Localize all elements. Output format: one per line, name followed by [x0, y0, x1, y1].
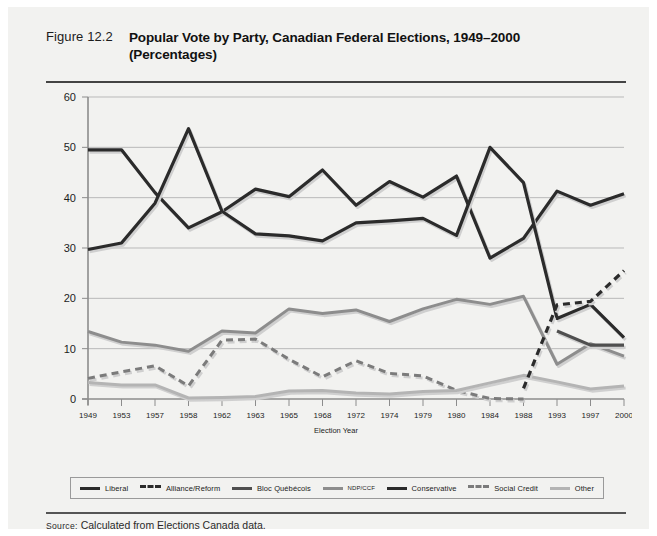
x-tick-label: 1963 — [247, 411, 265, 420]
legend-swatch-icon — [323, 487, 343, 490]
legend-label: Conservative — [412, 484, 457, 493]
series-line-conservative — [88, 129, 624, 338]
figure-number: Figure 12.2 — [46, 29, 113, 44]
series-shadow — [90, 131, 626, 340]
y-tick-label: 40 — [64, 192, 76, 204]
y-tick-label: 60 — [64, 91, 76, 103]
figure-page: Figure 12.2 Popular Vote by Party, Canad… — [0, 0, 657, 536]
x-tick-label: 1958 — [180, 411, 198, 420]
x-tick-label: 1997 — [582, 411, 600, 420]
legend-label: Social Credit — [494, 484, 538, 493]
figure-title-line-2: (Percentages) — [129, 46, 520, 63]
x-tick-label: 1988 — [515, 411, 533, 420]
legend-swatch-icon — [387, 487, 407, 490]
gridlines-group — [88, 97, 624, 399]
x-tick-label: 1993 — [548, 411, 566, 420]
legend-item-other: Other — [550, 484, 594, 493]
legend-swatch-icon — [550, 487, 570, 490]
legend-label: Liberal — [105, 484, 128, 493]
x-axis-tick-labels: 1949195319571958196219631965196819721974… — [79, 411, 632, 420]
legend-item-liberal: Liberal — [80, 484, 128, 493]
data-series-group — [88, 129, 626, 401]
x-tick-label: 2000 — [615, 411, 632, 420]
x-tick-label: 1968 — [314, 411, 332, 420]
legend-item-ndp-ccf: NDP/CCF — [323, 485, 375, 491]
legend-item-conservative: Conservative — [387, 484, 457, 493]
legend-item-alliance-reform: Alliance/Reform — [140, 484, 220, 493]
legend-label: Alliance/Reform — [166, 484, 220, 493]
x-tick-label: 1957 — [146, 411, 164, 420]
series-shadow — [90, 299, 626, 367]
legend-label: Other — [575, 484, 594, 493]
x-tick-label: 1980 — [448, 411, 466, 420]
series-line-liberal — [88, 150, 624, 258]
legend-swatch-icon — [232, 487, 252, 490]
x-tick-label: 1974 — [381, 411, 399, 420]
x-axis-title: Election Year — [314, 426, 358, 435]
legend-swatch-icon — [80, 487, 100, 490]
chart-plot-area: 0102030405060 19491953195719581962196319… — [40, 89, 632, 439]
x-tick-label: 1984 — [481, 411, 499, 420]
x-tick-label: 1949 — [79, 411, 97, 420]
legend-item-bloc-qu-b-cois: Bloc Québécois — [232, 484, 311, 493]
legend-label: NDP/CCF — [348, 485, 375, 491]
y-axis-tick-marks — [82, 97, 88, 399]
y-tick-label: 0 — [70, 393, 76, 405]
y-tick-label: 10 — [64, 343, 76, 355]
x-tick-label: 1965 — [280, 411, 298, 420]
legend-item-social-credit: Social Credit — [468, 484, 538, 493]
source-divider-rule — [46, 512, 626, 514]
x-tick-label: 1953 — [113, 411, 131, 420]
legend-swatch-icon — [140, 485, 161, 491]
legend-label: Bloc Québécois — [257, 484, 311, 493]
series-line-ndp-ccf — [88, 296, 624, 364]
source-note: Source: Calculated from Elections Canada… — [46, 519, 266, 531]
figure-title-block: Figure 12.2 Popular Vote by Party, Canad… — [46, 29, 626, 63]
title-divider-rule — [46, 81, 626, 83]
y-axis-tick-labels: 0102030405060 — [64, 91, 76, 405]
legend-swatch-icon — [468, 485, 489, 491]
y-tick-label: 20 — [64, 292, 76, 304]
x-axis-tick-marks — [88, 399, 624, 406]
line-chart-svg: 0102030405060 19491953195719581962196319… — [40, 89, 632, 439]
x-tick-label: 1962 — [213, 411, 231, 420]
x-tick-label: 1972 — [347, 411, 365, 420]
y-tick-label: 30 — [64, 242, 76, 254]
source-text: Calculated from Elections Canada data. — [78, 519, 266, 531]
figure-panel: Figure 12.2 Popular Vote by Party, Canad… — [8, 7, 649, 529]
source-label: Source: — [46, 521, 78, 531]
x-tick-label: 1979 — [414, 411, 432, 420]
figure-title-line-1: Popular Vote by Party, Canadian Federal … — [129, 29, 520, 46]
chart-legend: LiberalAlliance/ReformBloc QuébécoisNDP/… — [70, 477, 604, 499]
y-tick-label: 50 — [64, 141, 76, 153]
